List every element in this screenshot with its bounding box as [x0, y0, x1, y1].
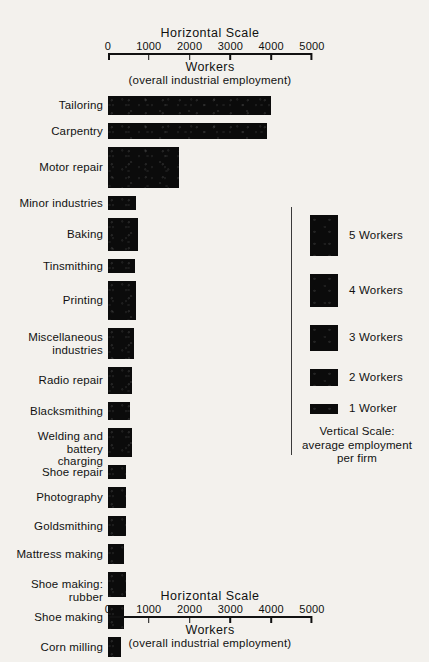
chart-canvas: Horizontal Scale 010002000300040005000 W…	[0, 0, 429, 662]
bar-label: Photography	[0, 491, 103, 504]
legend-swatch	[310, 369, 338, 386]
axis-tick-mark	[148, 616, 150, 623]
bar-label: Baking	[0, 228, 103, 241]
bar	[108, 465, 126, 479]
bar	[108, 516, 126, 536]
bar-label: Tailoring	[0, 99, 103, 112]
axis-tick-mark	[189, 616, 191, 623]
axis-tick-label: 2000	[177, 603, 202, 615]
bar	[108, 487, 126, 508]
bar	[108, 367, 132, 394]
legend-swatch	[310, 325, 338, 351]
bar	[108, 218, 138, 251]
legend-caption-line2: average employment	[289, 439, 425, 453]
axis-tick-mark	[270, 616, 272, 623]
bar-label: Miscellaneous industries	[0, 331, 103, 356]
bottom-horizontal-scale: Horizontal Scale 010002000300040005000 W…	[108, 589, 312, 649]
bottom-axis-caption: Workers	[108, 623, 312, 637]
legend-label: 5 Workers	[349, 229, 403, 241]
bar-label: Radio repair	[0, 374, 103, 387]
legend-caption: Vertical Scale: average employment per f…	[289, 425, 425, 466]
axis-tick-mark	[108, 616, 110, 623]
bar	[108, 428, 132, 457]
bar-label: Minor industries	[0, 197, 103, 210]
axis-tick-label: 0	[105, 603, 111, 615]
bar	[108, 196, 136, 210]
bar	[108, 123, 267, 139]
bar	[108, 402, 130, 420]
legend-label: 1 Worker	[349, 402, 397, 414]
bar-label: Goldsmithing	[0, 520, 103, 533]
bar	[108, 147, 179, 188]
bottom-axis-subcaption: (overall industrial employment)	[108, 637, 312, 649]
legend: Vertical Scale: average employment per f…	[291, 207, 429, 457]
legend-swatch	[310, 215, 338, 256]
legend-swatch	[310, 274, 338, 307]
axis-tick-label: 3000	[218, 603, 243, 615]
bar-label: Printing	[0, 294, 103, 307]
bar-label: Blacksmithing	[0, 405, 103, 418]
bar	[108, 544, 124, 564]
bar	[108, 96, 271, 115]
bar-label: Corn milling	[0, 641, 103, 654]
bar-label: Shoe repair	[0, 466, 103, 479]
bar-label: Shoe making	[0, 611, 103, 624]
legend-label: 3 Workers	[349, 331, 403, 343]
legend-divider	[291, 207, 292, 455]
bar	[108, 259, 135, 273]
axis-tick-mark	[230, 616, 232, 623]
axis-tick-label: 5000	[299, 603, 324, 615]
bottom-axis-rule	[108, 616, 312, 618]
bar-label: Carpentry	[0, 125, 103, 138]
legend-label: 4 Workers	[349, 284, 403, 296]
bar-label: Mattress making	[0, 548, 103, 561]
bar	[108, 328, 134, 359]
bar-label: Welding and battery charging	[0, 430, 103, 468]
axis-tick-label: 1000	[136, 603, 161, 615]
bottom-scale-title: Horizontal Scale	[108, 589, 312, 603]
bar-label: Shoe making: rubber	[0, 578, 103, 603]
legend-caption-line3: per firm	[289, 452, 425, 466]
bar	[108, 281, 136, 320]
legend-swatch	[310, 404, 338, 414]
axis-tick-mark	[310, 616, 312, 623]
bar-label: Tinsmithing	[0, 260, 103, 273]
bottom-axis-tick-labels: 010002000300040005000	[108, 603, 312, 616]
legend-label: 2 Workers	[349, 371, 403, 383]
bar-label: Motor repair	[0, 161, 103, 174]
legend-caption-line1: Vertical Scale:	[289, 425, 425, 439]
axis-tick-label: 4000	[259, 603, 284, 615]
bottom-axis-line	[108, 616, 312, 623]
